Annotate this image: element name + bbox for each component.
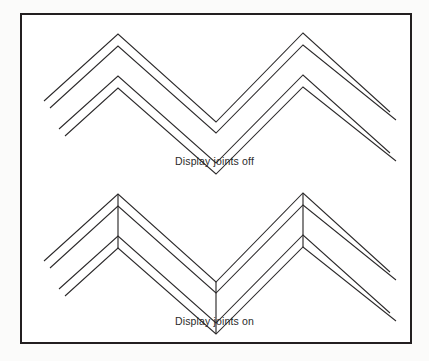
joints-on-upper-band	[44, 193, 396, 293]
joints-on-lower-outer-line	[59, 235, 390, 323]
panel-joints-off	[44, 33, 396, 174]
joints-off-lower-outer-line	[59, 75, 390, 163]
panel-joints-on	[44, 193, 396, 334]
figure-root: Display joints off Display joints on	[0, 0, 429, 361]
zigzag-diagram	[0, 0, 429, 361]
joints-off-upper-band	[44, 33, 396, 133]
caption-display-joints-on: Display joints on	[0, 315, 429, 327]
caption-display-joints-off: Display joints off	[0, 155, 429, 167]
